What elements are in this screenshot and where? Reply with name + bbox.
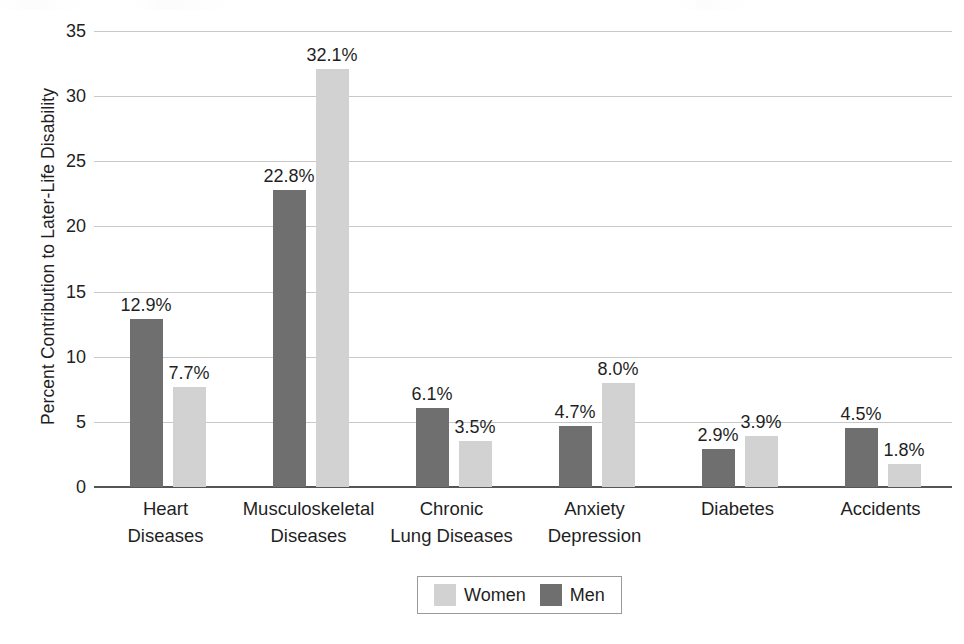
category-label: Diabetes: [666, 495, 809, 522]
plot-area: 12.9%7.7%22.8%32.1%6.1%3.5%4.7%8.0%2.9%3…: [94, 31, 952, 487]
bar-group: 6.1%3.5%: [380, 31, 523, 487]
bar-value-label: 4.7%: [554, 402, 595, 423]
bar-value-label: 3.9%: [740, 412, 781, 433]
category-label-line: Lung Diseases: [380, 522, 523, 549]
category-label-line: Diabetes: [666, 495, 809, 522]
bar-men: 4.5%: [845, 428, 878, 487]
bar-men: 2.9%: [702, 449, 735, 487]
bar-value-label: 4.5%: [840, 404, 881, 425]
category-label-line: Musculoskeletal: [237, 495, 380, 522]
legend-item-label: Women: [464, 585, 526, 606]
category-label-line: Heart: [94, 495, 237, 522]
women-swatch: [434, 584, 456, 606]
legend-item-women[interactable]: Women: [434, 584, 526, 606]
bar-value-label: 12.9%: [120, 295, 171, 316]
chart-legend: WomenMen: [417, 576, 622, 614]
bar-women: 1.8%: [888, 464, 921, 487]
category-label-line: Accidents: [809, 495, 952, 522]
bar-value-label: 22.8%: [263, 166, 314, 187]
bar-value-label: 1.8%: [883, 440, 924, 461]
bar-value-label: 8.0%: [597, 359, 638, 380]
category-label-line: Diseases: [237, 522, 380, 549]
bar-women: 3.9%: [745, 436, 778, 487]
y-axis-tick-label: 35: [40, 21, 86, 42]
category-label-line: Chronic: [380, 495, 523, 522]
y-axis-tick-label: 5: [40, 411, 86, 432]
men-swatch: [540, 584, 562, 606]
category-label: HeartDiseases: [94, 495, 237, 549]
bar-women: 8.0%: [602, 383, 635, 487]
bar-women: 7.7%: [173, 387, 206, 487]
y-axis-tick-label: 25: [40, 151, 86, 172]
y-axis-tick-label: 0: [40, 477, 86, 498]
bar-chart: Percent Contribution to Later-Life Disab…: [0, 0, 964, 644]
y-axis-tick-label: 30: [40, 86, 86, 107]
bar-men: 12.9%: [130, 319, 163, 487]
legend-item-men[interactable]: Men: [540, 584, 605, 606]
bar-group: 4.7%8.0%: [523, 31, 666, 487]
bar-women: 32.1%: [316, 69, 349, 487]
bar-men: 6.1%: [416, 408, 449, 487]
bar-value-label: 3.5%: [454, 417, 495, 438]
category-label-line: Diseases: [94, 522, 237, 549]
category-label: AnxietyDepression: [523, 495, 666, 549]
bar-group: 12.9%7.7%: [94, 31, 237, 487]
category-label: ChronicLung Diseases: [380, 495, 523, 549]
bar-value-label: 32.1%: [306, 45, 357, 66]
y-axis-tick-label: 10: [40, 346, 86, 367]
category-label-line: Anxiety: [523, 495, 666, 522]
bar-group: 4.5%1.8%: [809, 31, 952, 487]
y-axis-tick-label: 20: [40, 216, 86, 237]
bar-group: 22.8%32.1%: [237, 31, 380, 487]
bar-group: 2.9%3.9%: [666, 31, 809, 487]
category-label: Accidents: [809, 495, 952, 522]
bar-men: 4.7%: [559, 426, 592, 487]
bar-value-label: 7.7%: [168, 363, 209, 384]
bar-men: 22.8%: [273, 190, 306, 487]
y-axis-ticks: 35302520151050: [30, 31, 86, 487]
category-label-line: Depression: [523, 522, 666, 549]
bar-value-label: 6.1%: [411, 384, 452, 405]
bar-value-label: 2.9%: [697, 425, 738, 446]
legend-item-label: Men: [570, 585, 605, 606]
bar-women: 3.5%: [459, 441, 492, 487]
x-axis-category-labels: HeartDiseasesMusculoskeletalDiseasesChro…: [94, 495, 952, 557]
category-label: MusculoskeletalDiseases: [237, 495, 380, 549]
scan-artifact: [0, 0, 964, 10]
y-axis-tick-label: 15: [40, 281, 86, 302]
